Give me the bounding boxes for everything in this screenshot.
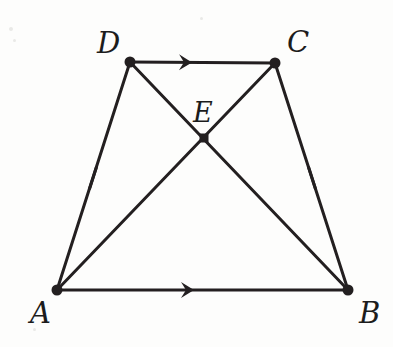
paper-speck (9, 27, 13, 31)
vertex-label-E: E (193, 99, 213, 126)
tick-on-AD (90, 168, 97, 189)
diagonal-DB (130, 62, 348, 290)
segment-DC (130, 62, 275, 63)
tick-on-BC (309, 168, 316, 189)
diagonal-AC (57, 63, 275, 290)
vertex-label-D: D (97, 29, 120, 58)
paper-speck (200, 17, 203, 20)
vertex-dot-A (52, 285, 63, 296)
vertex-dot-C (270, 58, 281, 69)
vertex-label-B: B (359, 299, 380, 328)
paper-speck (13, 39, 16, 42)
vertex-dot-E (200, 134, 209, 143)
vertex-label-C: C (287, 28, 309, 57)
vertex-dot-B (343, 285, 354, 296)
vertex-dot-D (125, 57, 136, 68)
vertex-label-A: A (30, 299, 51, 328)
geometry-figure: D C E A B (0, 0, 393, 347)
figure-canvas (0, 0, 393, 347)
